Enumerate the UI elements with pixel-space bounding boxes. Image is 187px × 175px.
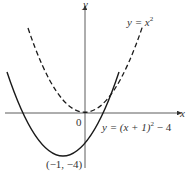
label-shift-suffix: − 4	[154, 121, 172, 133]
y-axis-label: y	[82, 0, 88, 10]
vertex-label: (−1, −4)	[46, 158, 83, 171]
label-x2-exp: 2	[150, 15, 154, 23]
curve-shifted-parabola	[7, 72, 119, 156]
label-y-equals-x-squared: y = x2	[126, 15, 154, 28]
graph-canvas: y x 0 y = x2 y = (x + 1)2 − 4 (−1, −4)	[0, 0, 187, 175]
label-x2-prefix: y = x	[126, 16, 150, 28]
origin-label: 0	[76, 116, 82, 128]
curve-y-equals-x-squared	[28, 25, 143, 112]
label-shifted-parabola: y = (x + 1)2 − 4	[101, 120, 172, 134]
label-shift-prefix: y = (x + 1)	[101, 121, 151, 134]
x-axis-label: x	[179, 107, 185, 119]
